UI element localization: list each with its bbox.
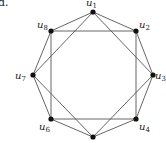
graph-labels: u1u2u3u4u6u7u8	[15, 0, 166, 134]
octagon-graph: u1u2u3u4u6u7u8	[0, 0, 166, 143]
edge-u4-u5	[93, 119, 136, 137]
node-u7	[30, 72, 35, 77]
edge-u1-u2	[93, 12, 136, 31]
node-u6	[48, 116, 53, 121]
label-u6: u6	[39, 121, 50, 134]
graph-nodes	[30, 9, 155, 139]
edge-u2-u3	[136, 31, 153, 75]
edge-u3-u4	[136, 75, 153, 119]
label-u8: u8	[37, 19, 48, 32]
edge-u5-u6	[51, 119, 93, 137]
edge-u6-u7	[33, 75, 51, 119]
node-u4	[133, 116, 138, 121]
label-u1: u1	[86, 0, 97, 10]
node-u8	[48, 28, 53, 33]
label-u4: u4	[139, 121, 150, 134]
edge-u7-u8	[33, 31, 51, 75]
label-u2: u2	[139, 19, 150, 32]
node-u1	[90, 9, 95, 14]
node-u5	[90, 134, 95, 139]
label-u3: u3	[155, 70, 166, 83]
edge-u8-u1	[51, 12, 93, 31]
node-u2	[133, 28, 138, 33]
label-u7: u7	[15, 70, 26, 83]
